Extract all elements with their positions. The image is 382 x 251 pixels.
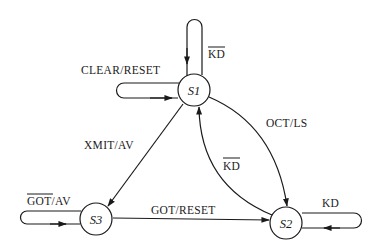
transition-s3-self-left <box>21 211 82 224</box>
label-got-bar: GOT <box>27 195 52 207</box>
state-s3: S3 <box>80 203 112 235</box>
state-s2: S2 <box>270 207 302 239</box>
label-kd-bar-top: KD <box>208 48 225 60</box>
transition-s1-self-left <box>117 83 179 98</box>
transition-s1-to-s3 <box>108 104 183 206</box>
label-kd-bar-inner: KD <box>223 160 240 172</box>
state-s1: S1 <box>178 74 210 106</box>
state-diagram: KD CLEAR/RESET OCT/LS KD XMIT/AV GOT/AV … <box>0 0 382 251</box>
label-xmit-av: XMIT/AV <box>84 139 134 151</box>
label-s2-to-s1: KD <box>223 158 240 172</box>
transition-s3-to-s2 <box>113 218 269 220</box>
state-s3-label: S3 <box>90 213 103 227</box>
transition-s1-self-top <box>187 20 202 77</box>
label-got-av: GOT/AV <box>27 195 71 207</box>
state-s1-label: S1 <box>188 84 201 98</box>
label-s1-self-top: KD <box>208 47 225 60</box>
label-s3-self: GOT/AV <box>27 194 71 207</box>
label-got-reset: GOT/RESET <box>151 204 216 216</box>
label-av: /AV <box>52 195 72 207</box>
state-s2-label: S2 <box>280 217 293 231</box>
transition-s2-self-right <box>302 213 362 228</box>
transition-s1-to-s2 <box>209 97 287 206</box>
label-oct-ls: OCT/LS <box>266 117 307 129</box>
label-kd-right: KD <box>322 197 339 209</box>
label-clear-reset: CLEAR/RESET <box>81 64 160 76</box>
